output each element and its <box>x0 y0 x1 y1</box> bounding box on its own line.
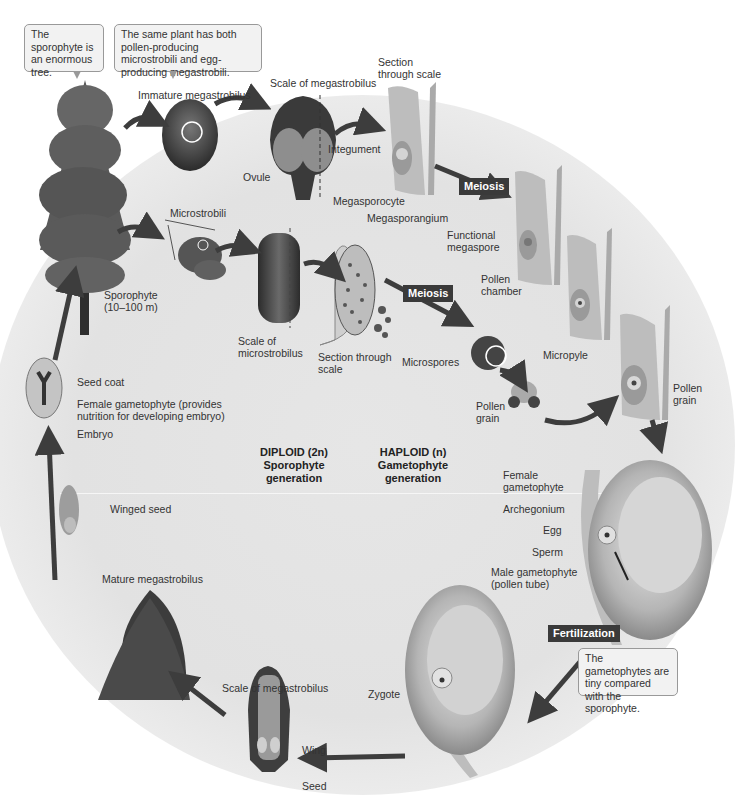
immature-megastrobilus <box>162 99 218 171</box>
label-microspores: Microspores <box>402 356 459 368</box>
label-egg: Egg <box>543 524 562 536</box>
label-male-gametophyte-2: (pollen tube) <box>491 578 549 590</box>
label-megasporangium: Megasporangium <box>367 212 448 224</box>
ovule-fertilization <box>581 460 712 645</box>
label-pollen-chamber-1: Pollen <box>481 273 510 285</box>
label-wing: Wing <box>302 744 326 756</box>
haploid-generation-label: HAPLOID (n) Gametophyte generation <box>368 446 458 485</box>
meiosis-badge-mega: Meiosis <box>459 178 509 195</box>
callout-sporophyte-tree: The sporophyte is an enormous tree. <box>24 24 104 72</box>
label-embryo: Embryo <box>77 428 113 440</box>
label-scale-of-microstrobilus-2: microstrobilus <box>238 347 303 359</box>
section-scale-top <box>388 82 436 195</box>
label-mature-megastrobilus: Mature megastrobilus <box>102 573 203 585</box>
label-seed-coat: Seed coat <box>77 376 124 388</box>
microsporangium-section <box>320 245 391 345</box>
label-ovule: Ovule <box>243 171 270 183</box>
label-section-line2: through scale <box>378 68 441 80</box>
label-archegonium: Archegonium <box>503 503 565 515</box>
label-sporophyte-2: (10–100 m) <box>104 301 158 313</box>
label-section-line1: Section <box>378 56 413 68</box>
label-scale-of-megastrobilus: Scale of megastrobilus <box>270 77 376 89</box>
seed <box>26 358 62 418</box>
pollen-grain <box>508 381 540 408</box>
label-sperm: Sperm <box>532 546 563 558</box>
diploid-generation-label: DIPLOID (2n) Sporophyte generation <box>254 446 334 485</box>
megastrobilus-scale <box>270 95 336 200</box>
ovule-zygote <box>405 585 515 778</box>
microstrobilus-scale <box>258 228 300 328</box>
label-microstrobili: Microstrobili <box>170 207 226 219</box>
label-functional-line1: Functional <box>447 229 495 241</box>
fertilization-badge: Fertilization <box>548 625 620 642</box>
label-female-gametophyte-2: gametophyte <box>503 481 564 493</box>
label-section-through-scale-1: Section through <box>318 351 392 363</box>
label-female-gametophyte-1: Female <box>503 469 538 481</box>
label-immature-megastrobilus: Immature megastrobilus <box>138 89 251 101</box>
label-integument: Integument <box>328 143 381 155</box>
callout-gametophytes-tiny: The gametophytes are tiny compared with … <box>578 648 678 696</box>
meiosis-badge-micro: Meiosis <box>403 285 453 302</box>
label-pollen-grain-mid-1: Pollen <box>476 400 505 412</box>
label-megasporocyte: Megasporocyte <box>333 195 405 207</box>
section-pollen-grain <box>620 305 670 420</box>
label-female-gametophyte-seed-1: Female gametophyte (provides <box>77 398 222 410</box>
label-male-gametophyte-1: Male gametophyte <box>491 566 577 578</box>
label-pollen-grain-right-1: Pollen <box>673 382 702 394</box>
label-section-through-scale-2: scale <box>318 363 343 375</box>
label-winged-seed: Winged seed <box>110 503 171 515</box>
label-seed: Seed <box>302 780 327 792</box>
label-sporophyte-1: Sporophyte <box>104 289 158 301</box>
section-micropyle <box>567 228 612 340</box>
label-pollen-chamber-2: chamber <box>481 285 522 297</box>
microspores <box>471 336 506 370</box>
label-zygote: Zygote <box>368 688 400 700</box>
label-scale-of-microstrobilus-1: Scale of <box>238 335 276 347</box>
section-functional-megaspore <box>515 165 562 285</box>
winged-seed <box>59 485 79 535</box>
label-pollen-grain-mid-2: grain <box>476 412 499 424</box>
callout-same-plant: The same plant has both pollen-producing… <box>114 24 262 72</box>
label-scale-of-megastrobilus-bottom: Scale of megastrobilus <box>222 682 328 694</box>
mature-megastrobilus <box>98 590 190 700</box>
label-functional-line2: megaspore <box>447 241 500 253</box>
label-pollen-grain-right-2: grain <box>673 394 696 406</box>
label-female-gametophyte-seed-2: nutrition for developing embryo) <box>77 410 225 422</box>
label-micropyle: Micropyle <box>543 349 588 361</box>
